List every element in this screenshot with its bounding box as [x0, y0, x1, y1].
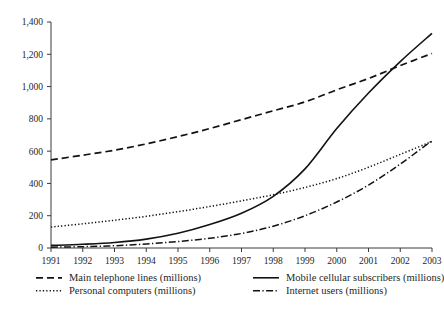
- chart-container: 02004006008001,0001,2001,400 19911992199…: [0, 0, 444, 310]
- x-tick-label: 2001: [359, 256, 378, 266]
- x-tick-label: 2002: [391, 256, 410, 266]
- x-tick-label: 1992: [73, 256, 92, 266]
- y-tick-label: 0: [38, 243, 43, 253]
- x-tick-label: 1994: [137, 256, 156, 266]
- legend-label: Internet users (millions): [286, 285, 387, 297]
- y-tick-label: 800: [29, 114, 44, 124]
- y-tick-label: 200: [29, 211, 44, 221]
- y-tick-label: 1,400: [22, 17, 44, 27]
- y-tick-label: 400: [29, 179, 44, 189]
- x-tick-label: 1993: [105, 256, 124, 266]
- x-tick-label: 1996: [200, 256, 219, 266]
- x-tick-label: 1991: [42, 256, 61, 266]
- x-tick-label: 2003: [423, 256, 442, 266]
- y-tick-label: 600: [29, 147, 44, 157]
- x-tick-label: 1999: [296, 256, 315, 266]
- legend-label: Personal computers (millions): [69, 285, 196, 297]
- legend-label: Mobile cellular subscribers (millions): [286, 272, 444, 284]
- y-tick-label: 1,000: [22, 82, 44, 92]
- y-tick-label: 1,200: [22, 50, 44, 60]
- x-tick-label: 2000: [327, 256, 346, 266]
- x-tick-label: 1997: [232, 256, 251, 266]
- x-tick-label: 1998: [264, 256, 283, 266]
- line-chart: 02004006008001,0001,2001,400 19911992199…: [0, 0, 444, 310]
- legend-label: Main telephone lines (millions): [69, 272, 202, 284]
- x-tick-label: 1995: [169, 256, 188, 266]
